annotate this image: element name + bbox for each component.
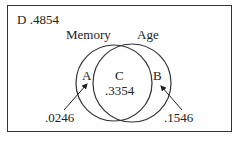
region-a-label: A — [82, 69, 91, 82]
region-a-value: .0246 — [45, 111, 74, 124]
memory-set-label: Memory — [66, 28, 111, 41]
region-c-label: C — [115, 69, 124, 82]
region-b-value: .1546 — [164, 111, 193, 124]
region-c-value: .3354 — [105, 84, 134, 97]
outside-region-label: D .4854 — [17, 13, 59, 26]
age-set-label: Age — [137, 28, 159, 41]
region-b-label: B — [153, 69, 162, 82]
arrow-b — [161, 86, 182, 110]
